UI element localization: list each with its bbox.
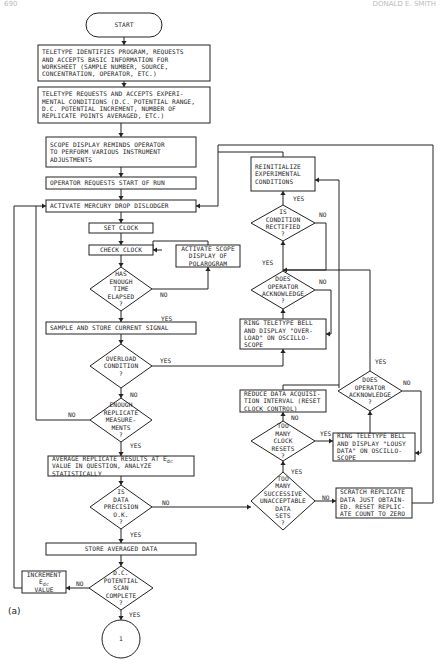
node-text-line: AND ACCEPTS BASIC INFORMATION FOR [42, 56, 168, 63]
node-text-line: ? [281, 230, 285, 237]
node-text-line: PRECISION [104, 503, 139, 510]
edge-label-no: NO [322, 494, 330, 501]
node-sample-store: SAMPLE AND STORE CURRENT SIGNAL [46, 322, 196, 334]
node-text-line: DOES [362, 376, 377, 383]
node-text-line: TO PERFORM VARIOUS INSTRUMENT [50, 148, 161, 155]
edge-label-yes: YES [291, 468, 302, 475]
flow-line [36, 206, 90, 420]
arrowhead [205, 267, 210, 271]
node-text-line: TOO [277, 422, 289, 429]
node-activate-dislodger: ACTIVATE MERCURY DROP DISLODGER [46, 200, 196, 212]
page-number: 690 [4, 0, 17, 8]
arrowhead [415, 450, 419, 455]
node-text-line: ? [119, 518, 123, 525]
node-text-line: SETS [275, 512, 290, 519]
edge-label-no: NO [162, 499, 170, 506]
node-average-replicate: AVERAGE REPLICATE RESULTS AT EdcVALUE IN… [48, 455, 194, 477]
edge-label-no: NO [291, 414, 299, 421]
node-text-line: ED. RESET REPLIC- [340, 503, 405, 510]
node-text-line: CHECK CLOCK [100, 246, 142, 253]
edge-label-no: NO [130, 391, 138, 398]
node-text-line: CONDITION [266, 216, 301, 223]
node-text-line: VALUE IN QUESTION, ANALYZE [52, 462, 152, 469]
node-ring-lousy: RING TELETYPE BELLAND DISPLAY "LOUSYDATA… [333, 432, 415, 461]
arrowhead [42, 203, 46, 208]
node-teletype-requests: TELETYPE REQUESTS AND ACCEPTS EXPERI-MEN… [38, 87, 210, 123]
node-text-line: CONDITION [104, 362, 139, 369]
node-text-line: REPLICATE POINTS AVERAGED, ETC.) [42, 112, 164, 119]
node-set-clock: SET CLOCK [89, 223, 153, 233]
node-text-line: TIME [113, 285, 128, 292]
node-operator-requests: OPERATOR REQUESTS START OF RUN [46, 177, 196, 189]
node-text-line: SCOPE [244, 341, 263, 348]
node-text-line: SUCCESSIVE [264, 490, 302, 497]
arrowhead [280, 461, 285, 465]
node-text-line: SCOPE DISPLAY REMINDS OPERATOR [50, 141, 165, 148]
node-text-line: AND DISPLAY "LOUSY [337, 440, 406, 447]
node-text-line: RECTIFIED [266, 223, 301, 230]
flow-line [152, 349, 283, 366]
arrowhead [315, 177, 319, 182]
node-connector: 1 [102, 620, 140, 658]
node-text-line: ACTIVATE MERCURY DROP DISLODGER [50, 202, 169, 209]
node-operator-ack-1: DOESOPERATORACKNOWLEDGE? [251, 271, 315, 309]
node-text-line: START [114, 21, 133, 28]
node-text-line: MANY [275, 482, 290, 489]
node-text-line: WORKSHEET (SAMPLE NUMBER, SOURCE, [42, 63, 168, 70]
node-text-line: RING TELETYPE BELL [244, 319, 313, 326]
arrowhead [196, 203, 200, 208]
arrowhead [280, 412, 285, 416]
node-text-line: REPLICATE [104, 409, 139, 416]
arrowhead [280, 309, 285, 313]
subscript: dc [167, 458, 173, 464]
node-text-line: IS [117, 488, 125, 495]
node-text-line: MENTS [111, 424, 130, 431]
node-text-line: INCREMENT [27, 571, 62, 578]
node-text-line: ACKNOWLEDGE [262, 290, 304, 297]
arrowhead [118, 173, 123, 177]
node-text-line: EXPERIMENTAL [255, 170, 301, 177]
node-text-line: SET CLOCK [104, 224, 139, 231]
node-text-line: ENOUGH [110, 401, 133, 408]
node-reinitialize: REINITIALIZEEXPERIMENTALCONDITIONS [251, 157, 315, 191]
node-text-line: AND DISPLAY "OVER- [244, 327, 313, 334]
arrowhead [121, 83, 126, 87]
node-text-line: RING TELETYPE BELL [337, 432, 406, 439]
arrowhead [280, 241, 285, 245]
running-title: DONALD E. SMITH [373, 0, 436, 8]
node-text-line: OPERATOR [355, 384, 386, 391]
node-text-line: STATISTICALLY [52, 470, 102, 477]
node-increment: INCREMENTEdcVALUE [22, 571, 66, 593]
node-text-line: CONDITIONS [255, 178, 293, 185]
flowchart: 690 DONALD E. SMITH STARTTELETYPE IDENTI… [0, 0, 440, 670]
node-text-line: LOAD" ON OSCILLO- [244, 334, 309, 341]
node-text-line: MANY [275, 430, 290, 437]
flow-line [152, 267, 208, 289]
node-text-line: CLOCK CONTROL) [244, 405, 298, 412]
node-text-line: SAMPLE AND STORE CURRENT SIGNAL [50, 324, 169, 331]
node-text-line: POTENTIAL [104, 577, 139, 584]
node-reduce-interval: REDUCE DATA ACQUISI-TION INTERVAL (RESET… [240, 390, 326, 412]
node-text-line: ENOUGH [110, 278, 133, 285]
node-ring-overload: RING TELETYPE BELLAND DISPLAY "OVER-LOAD… [240, 319, 326, 349]
edge-label-no: NO [319, 278, 327, 285]
edge-label-yes: YES [130, 531, 141, 538]
node-text-line: DISPLAY OF [189, 252, 227, 259]
node-text-line: SCOPE [337, 454, 356, 461]
edge-label-no: NO [68, 411, 76, 418]
arrowhead [153, 247, 157, 252]
node-start: START [86, 13, 162, 37]
arrowhead [367, 411, 372, 415]
edge-label-yes: YES [129, 611, 140, 618]
edge-label-yes: YES [161, 315, 172, 322]
node-condition-rectified: ISCONDITIONRECTIFIED? [251, 205, 315, 241]
node-text-line: SCRATCH REPLICATE [340, 488, 405, 495]
edge-label-yes: YES [375, 358, 386, 365]
arrowhead [118, 219, 123, 223]
node-text-line: DATA" ON OSCILLO- [337, 447, 402, 454]
node-activate-scope: ACTIVATE SCOPEDISPLAY OFPOLAROGRAM [176, 245, 240, 267]
node-text-line: TION INTERVAL (RESET [244, 397, 321, 404]
node-teletype-identifies: TELETYPE IDENTIFIES PROGRAM, REQUESTSAND… [38, 45, 210, 81]
node-text-line: ? [368, 398, 372, 405]
figure-caption: (a) [8, 606, 21, 616]
